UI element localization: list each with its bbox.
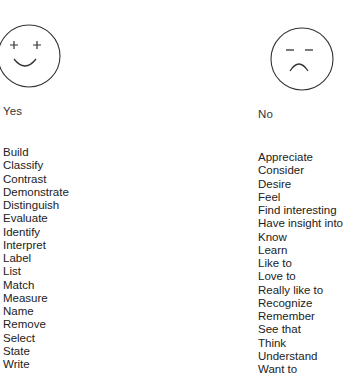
list-item: Feel: [258, 191, 343, 204]
list-item: Select: [3, 332, 69, 345]
list-item: Think: [258, 337, 343, 350]
list-item: State: [3, 345, 69, 358]
list-item: Really like to: [258, 284, 343, 297]
list-item: Demonstrate: [3, 186, 69, 199]
list-item: Measure: [3, 292, 69, 305]
list-item: Contrast: [3, 173, 69, 186]
list-item: See that: [258, 323, 343, 336]
list-item: Build: [3, 146, 69, 159]
list-item: Evaluate: [3, 212, 69, 225]
list-item: Have insight into: [258, 217, 343, 230]
list-item: Know: [258, 231, 343, 244]
list-item: Love to: [258, 270, 343, 283]
list-item: Learn: [258, 244, 343, 257]
list-item: Find interesting: [258, 204, 343, 217]
list-item: Distinguish: [3, 199, 69, 212]
list-item: List: [3, 265, 69, 278]
no-heading: No: [258, 108, 273, 121]
list-item: Remember: [258, 310, 343, 323]
list-item: Understand: [258, 350, 343, 363]
list-item: Match: [3, 279, 69, 292]
list-item: Desire: [258, 178, 343, 191]
sad-face-icon: [269, 26, 335, 92]
no-verb-list: Appreciate Consider Desire Feel Find int…: [258, 151, 343, 376]
list-item: Want to: [258, 363, 343, 376]
happy-face-icon: [0, 23, 62, 89]
list-item: Appreciate: [258, 151, 343, 164]
list-item: Write: [3, 358, 69, 371]
list-item: Identify: [3, 226, 69, 239]
list-item: Name: [3, 305, 69, 318]
list-item: Consider: [258, 164, 343, 177]
yes-verb-list: Build Classify Contrast Demonstrate Dist…: [3, 146, 69, 371]
list-item: Classify: [3, 159, 69, 172]
list-item: Like to: [258, 257, 343, 270]
list-item: Interpret: [3, 239, 69, 252]
yes-heading: Yes: [3, 105, 22, 118]
list-item: Remove: [3, 318, 69, 331]
list-item: Label: [3, 252, 69, 265]
list-item: Recognize: [258, 297, 343, 310]
